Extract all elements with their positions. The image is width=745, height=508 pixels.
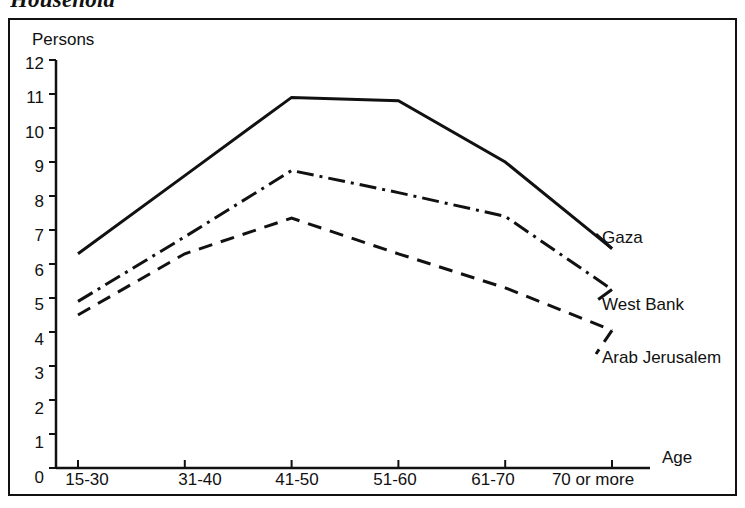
- series-lines: [78, 97, 612, 354]
- axis-lines: [56, 60, 650, 468]
- series-leader-west-bank: [596, 290, 612, 302]
- series-line-arab-jerusalem: [78, 218, 612, 330]
- series-leader-gaza: [596, 234, 612, 249]
- series-leader-arab-jerusalem: [596, 330, 612, 354]
- series-line-west-bank: [78, 171, 612, 302]
- figure-title: Household: [10, 0, 115, 13]
- chart-frame: Persons Age 12 11 10 9 8 7 6 5 4 3 2 1 0…: [8, 18, 737, 496]
- plot-area: [10, 20, 739, 498]
- series-line-gaza: [78, 97, 612, 253]
